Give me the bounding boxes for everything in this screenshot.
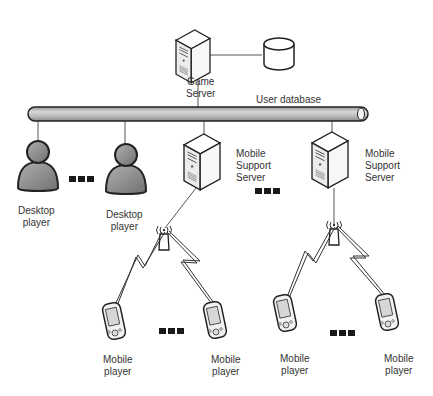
label-line: Mobile bbox=[365, 148, 400, 160]
mobile-player-3-label: Mobile player bbox=[280, 353, 309, 377]
label-line: Mobile bbox=[211, 354, 240, 366]
label-line: Server bbox=[186, 88, 215, 100]
wireless-links bbox=[115, 226, 386, 307]
label-line: Mobile bbox=[280, 353, 309, 365]
database-icon bbox=[264, 38, 294, 70]
ellipsis-desktop-players bbox=[69, 176, 94, 182]
game-server-label: Game Server bbox=[186, 76, 215, 100]
label-line: Desktop bbox=[18, 205, 55, 217]
label-line: Mobile bbox=[236, 148, 271, 160]
desktop-player-1-label: Desktop player bbox=[18, 205, 55, 229]
label-line: Server bbox=[236, 172, 271, 184]
desktop-player-1-icon bbox=[18, 141, 58, 191]
ellipsis-mobile-players-2 bbox=[330, 330, 355, 336]
user-database-label: User database bbox=[256, 94, 321, 106]
mobile-support-server-1-label: Mobile Support Server bbox=[236, 148, 271, 184]
mobile-support-server-1-icon bbox=[184, 134, 220, 190]
label-line: Game bbox=[186, 76, 215, 88]
game-server-icon bbox=[176, 30, 210, 83]
mobile-player-4-icon bbox=[374, 293, 399, 332]
label-line: Support bbox=[365, 160, 400, 172]
mobile-player-2-label: Mobile player bbox=[211, 354, 240, 378]
desktop-player-2-label: Desktop player bbox=[106, 209, 143, 233]
label-line: player bbox=[280, 365, 309, 377]
label-line: player bbox=[103, 366, 132, 378]
mobile-player-2-icon bbox=[202, 301, 227, 340]
edge-mss1-antenna1 bbox=[165, 188, 196, 228]
label-line: player bbox=[18, 217, 55, 229]
ellipsis-mobile-players-1 bbox=[159, 328, 184, 334]
mobile-player-3-icon bbox=[272, 294, 297, 333]
label-line: player bbox=[384, 365, 413, 377]
network-diagram bbox=[0, 0, 433, 396]
label-line: Support bbox=[236, 160, 271, 172]
label-line: player bbox=[211, 366, 240, 378]
desktop-player-2-icon bbox=[106, 144, 146, 194]
network-bus bbox=[28, 107, 368, 121]
label-line: Mobile bbox=[103, 354, 132, 366]
label-line: Mobile bbox=[384, 353, 413, 365]
mobile-player-4-label: Mobile player bbox=[384, 353, 413, 377]
mobile-support-server-2-icon bbox=[312, 132, 348, 188]
label-line: player bbox=[106, 221, 143, 233]
ellipsis-mobile-servers bbox=[255, 188, 280, 194]
label-line: Desktop bbox=[106, 209, 143, 221]
label-line: Server bbox=[365, 172, 400, 184]
mobile-player-1-icon bbox=[101, 302, 126, 341]
mobile-player-1-label: Mobile player bbox=[103, 354, 132, 378]
mobile-support-server-2-label: Mobile Support Server bbox=[365, 148, 400, 184]
